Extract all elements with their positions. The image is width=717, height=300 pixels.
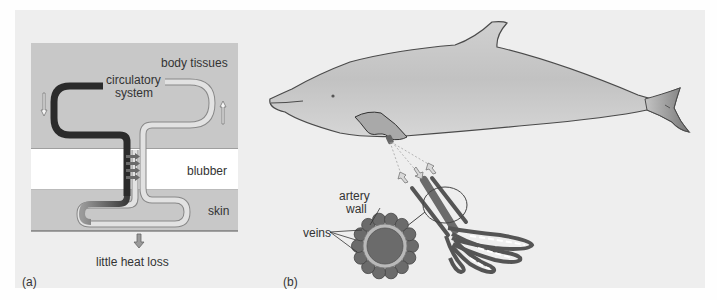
vessel-loops <box>446 228 532 272</box>
panel-a: body tissues circulatory system blubber … <box>22 43 238 289</box>
dolphin-body <box>270 22 689 137</box>
panel-b: artery wall veins (b) <box>270 22 689 289</box>
panel-b-tag: (b) <box>283 275 298 289</box>
label-skin: skin <box>208 204 229 218</box>
panel-a-tag: (a) <box>22 275 37 289</box>
label-blubber: blubber <box>187 164 227 178</box>
dolphin-eye <box>331 94 334 97</box>
label-veins: veins <box>303 226 331 240</box>
vessel-bundle <box>412 178 466 235</box>
vein-cross-section <box>352 240 365 253</box>
vein-cross-section <box>406 240 419 253</box>
dolphin-tail <box>645 88 689 132</box>
label-circulatory: circulatory <box>106 73 161 87</box>
label-heat-loss: little heat loss <box>96 255 169 269</box>
label-system: system <box>115 86 153 100</box>
label-artery: artery <box>339 189 370 203</box>
artery-lumen <box>367 228 403 264</box>
figure-canvas: body tissues circulatory system blubber … <box>0 0 717 300</box>
vein-flow-arrow-left <box>398 172 408 183</box>
label-body-tissues: body tissues <box>161 56 228 70</box>
heat-loss-arrow <box>134 234 144 248</box>
artery-flow-arrow <box>414 167 423 179</box>
cross-section <box>352 213 419 279</box>
diagram-svg: body tissues circulatory system blubber … <box>0 0 717 300</box>
label-wall: wall <box>345 202 367 216</box>
vein-flow-arrow-right <box>426 163 436 174</box>
